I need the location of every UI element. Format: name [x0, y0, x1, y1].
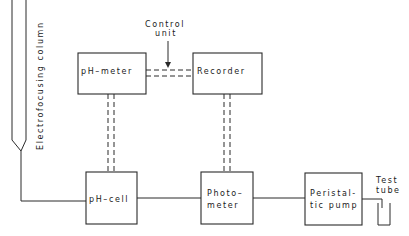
photometer-label-line2: meter [207, 201, 239, 210]
photometer-recorder-link [224, 94, 230, 172]
test-tube-icon [378, 203, 390, 225]
electrofocusing-column [12, 0, 86, 201]
peristaltic-pump-block [305, 173, 362, 225]
control-unit-arrow-icon [165, 41, 171, 68]
photometer-label-line1: Photo– [207, 189, 243, 198]
column-label: Electrofocusing column [36, 21, 45, 150]
test-tube-label-line1: Test [375, 176, 398, 185]
photometer-block [201, 172, 253, 224]
test-tube-label-line2: tube [376, 186, 401, 195]
control-unit-label-line2: unit [155, 29, 177, 38]
pump-label-line2: tic pump [310, 201, 358, 210]
block-diagram: Electrofocusing column Control unit pH–m… [0, 0, 409, 236]
control-unit-label-line1: Control [145, 20, 185, 29]
ph-meter-label: pH–meter [81, 67, 133, 76]
pump-label-line1: Peristal- [310, 189, 357, 198]
ph-meter-recorder-link [146, 70, 193, 76]
recorder-label: Recorder [197, 67, 246, 76]
ph-cell-label: pH–cell [89, 195, 129, 204]
ph-cell-ph-meter-link [108, 94, 114, 172]
